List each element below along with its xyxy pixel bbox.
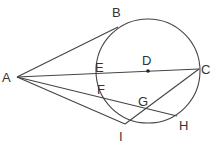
center-point-d (146, 69, 150, 73)
label-d: D (142, 53, 151, 68)
segment-ci (125, 69, 199, 124)
label-f: F (97, 82, 105, 97)
segment-ac (17, 69, 199, 77)
label-h: H (179, 118, 188, 133)
label-c: C (201, 62, 210, 77)
label-i: I (119, 129, 123, 144)
label-g: G (138, 94, 148, 109)
label-b: B (112, 5, 121, 20)
geometry-diagram: A B C D E F G H I (0, 0, 219, 150)
label-a: A (2, 70, 11, 85)
segment-ai (17, 77, 125, 124)
label-e: E (95, 60, 104, 75)
